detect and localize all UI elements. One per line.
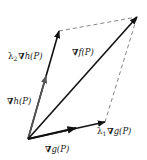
- label-grad-f: ∇f(P): [72, 47, 94, 57]
- label-grad-h: ∇h(P): [7, 96, 31, 106]
- lagrange-vector-diagram: λ2∇h(P) ∇f(P) ∇h(P) λ1∇g(P) ∇g(P): [0, 0, 147, 160]
- grad-f-vector: [28, 17, 137, 139]
- label-lambda1-grad-g: λ1∇g(P): [97, 126, 131, 137]
- label-grad-g: ∇g(P): [45, 144, 69, 154]
- grad-g-vector: [28, 128, 76, 139]
- label-lambda2-grad-h: λ2∇h(P): [8, 51, 42, 62]
- dashed-side-right: [105, 17, 137, 122]
